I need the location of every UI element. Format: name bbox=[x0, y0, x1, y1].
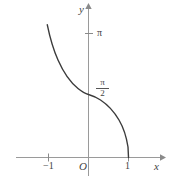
fraction-numerator: π bbox=[96, 78, 109, 87]
y-tick-label-pi-over-2: π 2 bbox=[96, 78, 109, 98]
plot-canvas bbox=[0, 0, 172, 182]
fraction-denominator: 2 bbox=[96, 89, 109, 98]
x-axis-label: x bbox=[154, 161, 159, 172]
arccos-curve bbox=[47, 25, 128, 158]
origin-label: O bbox=[79, 161, 87, 172]
x-tick-label-neg-one: −1 bbox=[43, 161, 54, 171]
y-axis-arrow-icon bbox=[85, 3, 91, 9]
y-tick-label-pi: π bbox=[97, 28, 102, 38]
arccos-graph-figure: y x O π π 2 −1 1 bbox=[0, 0, 172, 182]
x-tick-label-one: 1 bbox=[125, 161, 130, 171]
x-axis-arrow-icon bbox=[160, 154, 166, 160]
y-axis-label: y bbox=[79, 4, 84, 15]
